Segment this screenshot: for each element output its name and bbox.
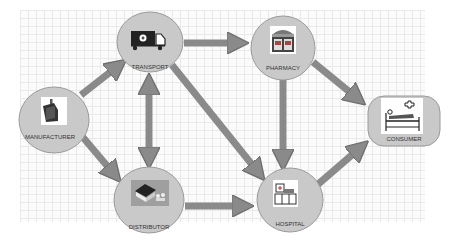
arrow-pharmacy-to-consumer bbox=[313, 62, 357, 98]
warehouse-icon bbox=[131, 180, 169, 206]
node-label-hospital: HOSPITAL bbox=[275, 221, 305, 227]
node-label-transport: TRANSPORT bbox=[132, 64, 169, 70]
node-label-distributor: DISTRIBUTOR bbox=[129, 224, 170, 230]
node-manufacturer[interactable]: MANUFACTURER bbox=[19, 87, 89, 153]
node-pharmacy[interactable]: PHARMACY bbox=[251, 16, 315, 80]
node-label-manufacturer: MANUFACTURER bbox=[25, 134, 76, 140]
hospital-building-icon bbox=[273, 180, 298, 207]
arrow-transport-to-hospital bbox=[172, 65, 258, 172]
arrow-manufacturer-to-distributor bbox=[81, 135, 114, 174]
node-label-pharmacy: PHARMACY bbox=[266, 65, 300, 71]
node-transport[interactable]: TRANSPORT bbox=[117, 12, 183, 72]
diagram-svg: MANUFACTURER TRANSPORT bbox=[0, 0, 459, 241]
arrow-hospital-to-consumer bbox=[316, 148, 360, 186]
arrow-manufacturer-to-transport bbox=[81, 66, 118, 95]
node-hospital[interactable]: HOSPITAL bbox=[257, 168, 323, 232]
node-label-consumer: CONSUMER bbox=[386, 136, 422, 142]
node-consumer[interactable]: CONSUMER bbox=[368, 96, 440, 146]
pharmacy-storefront-icon bbox=[270, 26, 296, 54]
node-distributor[interactable]: DISTRIBUTOR bbox=[114, 167, 184, 233]
diagram-canvas: MANUFACTURER TRANSPORT bbox=[0, 0, 459, 241]
patient-bed-icon bbox=[381, 98, 423, 134]
factory-icon bbox=[41, 97, 67, 125]
